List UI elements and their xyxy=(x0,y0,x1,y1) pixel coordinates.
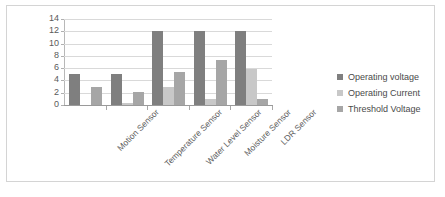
bar xyxy=(194,31,205,105)
legend-swatch-icon xyxy=(337,74,343,80)
legend-item[interactable]: Operating voltage xyxy=(337,69,445,85)
y-axis-tick-mark xyxy=(61,68,64,69)
bar xyxy=(111,74,122,105)
chart-frame: 14121086420 Motion SensorTemperature Sen… xyxy=(6,5,435,182)
bar xyxy=(152,31,163,105)
y-axis-tick-mark xyxy=(61,44,64,45)
y-axis-tick-labels: 14121086420 xyxy=(39,19,59,106)
y-axis-tick-label: 14 xyxy=(43,14,59,23)
x-axis-tick-mark xyxy=(230,106,231,110)
legend-label: Operating voltage xyxy=(348,72,419,82)
legend-swatch-icon xyxy=(337,90,343,96)
legend-item[interactable]: Threshold Voltage xyxy=(337,101,445,117)
bar xyxy=(246,69,257,105)
bar-group xyxy=(69,19,102,105)
x-axis-tick-labels: Motion SensorTemperature SensorWater Lev… xyxy=(64,107,279,167)
legend-swatch-icon xyxy=(337,106,343,112)
bar xyxy=(69,74,80,105)
y-axis-tick-mark xyxy=(61,19,64,20)
legend-label: Threshold Voltage xyxy=(348,104,421,114)
bar-group xyxy=(194,19,227,105)
plot-area xyxy=(64,19,272,105)
legend-item[interactable]: Operating Current xyxy=(337,85,445,101)
bar xyxy=(122,103,133,105)
bar xyxy=(205,99,216,105)
bar xyxy=(257,99,268,105)
y-axis-tick-mark xyxy=(61,105,64,106)
bar-group xyxy=(111,19,144,105)
legend-label: Operating Current xyxy=(348,88,420,98)
x-axis-tick-mark xyxy=(106,106,107,110)
x-axis-tick-mark xyxy=(189,106,190,110)
x-axis-line xyxy=(64,105,273,106)
bar-group xyxy=(152,19,185,105)
x-axis-tick-mark xyxy=(147,106,148,110)
y-axis-tick-label: 4 xyxy=(43,75,59,84)
y-axis-tick-label: 0 xyxy=(43,100,59,109)
bar xyxy=(216,60,227,105)
y-axis-tick-mark xyxy=(61,56,64,57)
y-axis-tick-label: 10 xyxy=(43,39,59,48)
x-axis-tick-mark xyxy=(272,106,273,110)
bar xyxy=(91,87,102,105)
bar xyxy=(235,31,246,105)
bar xyxy=(133,92,144,106)
y-axis-tick-mark xyxy=(61,31,64,32)
bar-group xyxy=(235,19,268,105)
y-axis-tick-label: 12 xyxy=(43,26,59,35)
chart-legend: Operating voltageOperating CurrentThresh… xyxy=(337,69,445,117)
y-axis-tick-label: 6 xyxy=(43,63,59,72)
x-axis-tick-label: Motion Sensor xyxy=(115,107,161,153)
y-axis-tick-label: 2 xyxy=(43,88,59,97)
bar xyxy=(174,72,185,105)
y-axis-tick-mark xyxy=(61,80,64,81)
bar xyxy=(163,87,174,105)
y-axis-tick-mark xyxy=(61,93,64,94)
y-axis-tick-label: 8 xyxy=(43,51,59,60)
